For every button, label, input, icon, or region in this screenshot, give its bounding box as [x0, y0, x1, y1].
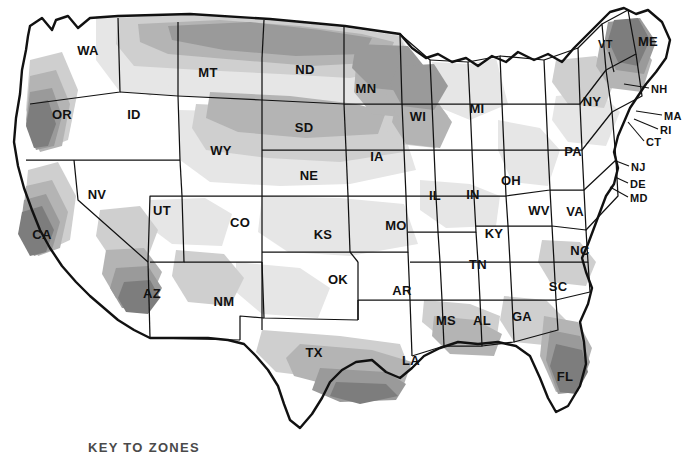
state-label-ok: OK: [328, 272, 348, 287]
state-label-mo: MO: [385, 218, 407, 233]
state-label-ne: NE: [300, 168, 319, 183]
state-label-pa: PA: [564, 144, 582, 159]
state-label-ny: NY: [583, 94, 602, 109]
state-label-id: ID: [127, 107, 141, 122]
state-label-wv: WV: [528, 203, 550, 218]
state-label-vt: VT: [598, 38, 613, 50]
leader-line-ct: [628, 122, 644, 141]
state-label-ca: CA: [32, 227, 52, 242]
state-label-al: AL: [473, 313, 491, 328]
state-label-sd: SD: [295, 120, 314, 135]
state-label-mi: MI: [469, 101, 484, 116]
state-label-az: AZ: [143, 286, 161, 301]
state-label-nj: NJ: [631, 161, 646, 173]
state-label-de: DE: [630, 178, 646, 190]
state-label-or: OR: [52, 107, 72, 122]
state-label-tx: TX: [305, 345, 322, 360]
state-label-nd: ND: [295, 62, 314, 77]
state-label-tn: TN: [469, 257, 487, 272]
leader-line-ma: [636, 111, 662, 115]
state-label-oh: OH: [501, 173, 521, 188]
state-label-ga: GA: [512, 309, 532, 324]
state-label-in: IN: [466, 187, 480, 202]
state-label-me: ME: [638, 34, 658, 49]
state-label-fl: FL: [557, 369, 573, 384]
state-label-md: MD: [630, 192, 648, 204]
zone-map-figure: WA OR CA NV ID MT WY UT AZ CO NM ND SD N…: [0, 0, 687, 472]
leader-line-ri: [634, 119, 658, 129]
state-label-va: VA: [566, 204, 584, 219]
state-label-ar: AR: [392, 283, 412, 298]
state-label-wa: WA: [77, 43, 99, 58]
state-label-ma: MA: [664, 110, 682, 122]
key-to-zones-caption: KEY TO ZONES: [88, 440, 200, 455]
state-label-il: IL: [429, 188, 441, 203]
state-label-ky: KY: [485, 226, 504, 241]
state-label-nc: NC: [570, 243, 590, 258]
state-label-la: LA: [402, 353, 420, 368]
state-label-wi: WI: [410, 109, 426, 124]
zone-fill-layer: [16, 10, 670, 430]
state-label-sc: SC: [549, 279, 568, 294]
state-label-ct: CT: [646, 136, 661, 148]
us-zone-map: WA OR CA NV ID MT WY UT AZ CO NM ND SD N…: [0, 0, 687, 472]
state-label-ut: UT: [153, 203, 171, 218]
state-label-nv: NV: [88, 187, 107, 202]
state-label-mt: MT: [198, 65, 217, 80]
state-label-ia: IA: [370, 149, 384, 164]
state-label-mn: MN: [356, 81, 377, 96]
state-label-co: CO: [230, 215, 250, 230]
state-label-wy: WY: [210, 143, 232, 158]
state-label-ri: RI: [660, 124, 672, 136]
state-label-nh: NH: [651, 83, 668, 95]
state-label-nm: NM: [214, 294, 235, 309]
state-label-ms: MS: [436, 313, 456, 328]
state-label-ks: KS: [314, 227, 333, 242]
